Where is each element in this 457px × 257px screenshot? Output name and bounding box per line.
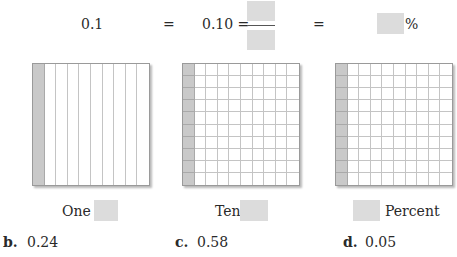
grid-cell: [241, 125, 253, 137]
fraction-bar: [247, 25, 275, 26]
grid-cell: [417, 149, 429, 161]
grid-cell: [440, 125, 452, 137]
shaded-cell: [336, 112, 348, 124]
grid-cell: [394, 64, 406, 76]
equals-sign: =: [163, 16, 175, 32]
grid-cell: [394, 88, 406, 100]
shaded-cell: [336, 88, 348, 100]
problem-letter-c: c.: [175, 234, 188, 250]
grid-cell: [371, 88, 383, 100]
grid-cell: [276, 64, 288, 76]
grid-cell: [382, 137, 394, 149]
grid-cell: [371, 100, 383, 112]
grid-cell: [382, 88, 394, 100]
grid-cell: [241, 112, 253, 124]
grid-cell: [429, 173, 441, 185]
grid-cell: [253, 76, 265, 88]
grid-cell: [45, 64, 57, 185]
grid-cell: [195, 76, 207, 88]
grid-cell: [206, 173, 218, 185]
grid-cell: [264, 64, 276, 76]
shaded-cell: [336, 161, 348, 173]
grid-cell: [241, 64, 253, 76]
ones-label-blank[interactable]: [94, 200, 118, 221]
grid-cell: [195, 125, 207, 137]
tens-label: Ten: [215, 203, 241, 219]
hundredths-expression: 0.10 =: [202, 16, 249, 32]
numerator-blank[interactable]: [247, 1, 275, 21]
grid-cell: [440, 76, 452, 88]
grid-cell: [253, 112, 265, 124]
grid-cell: [206, 64, 218, 76]
grid-cell: [276, 125, 288, 137]
grid-cell: [440, 173, 452, 185]
denominator-blank[interactable]: [247, 30, 275, 50]
shaded-cell: [183, 64, 195, 76]
grid-cell: [206, 112, 218, 124]
grid-cell: [218, 149, 230, 161]
shaded-cell: [183, 112, 195, 124]
grid-cell: [218, 112, 230, 124]
shaded-cell: [183, 161, 195, 173]
problem-letter-d: d.: [343, 234, 358, 250]
grid-cell: [359, 76, 371, 88]
grid-cell: [264, 173, 276, 185]
percent-blank[interactable]: [377, 13, 404, 34]
grid-cell: [371, 173, 383, 185]
grid-cell: [417, 100, 429, 112]
shaded-cell: [336, 76, 348, 88]
grid-cell: [229, 112, 241, 124]
grid-cell: [276, 173, 288, 185]
grid-cell: [406, 76, 418, 88]
shaded-cell: [183, 76, 195, 88]
grid-cell: [287, 88, 299, 100]
grid-cell: [371, 137, 383, 149]
grid-cell: [276, 161, 288, 173]
grid-cell: [253, 161, 265, 173]
grid-cell: [229, 76, 241, 88]
grid-cell: [359, 161, 371, 173]
grid-cell: [195, 137, 207, 149]
grid-cell: [264, 88, 276, 100]
grid-cell: [287, 112, 299, 124]
decimal-value: 0.1: [81, 16, 103, 32]
shaded-cell: [183, 88, 195, 100]
grid-cell: [206, 76, 218, 88]
grid-cell: [382, 64, 394, 76]
grid-cell: [394, 149, 406, 161]
grid-cell: [394, 100, 406, 112]
grid-cell: [68, 64, 80, 185]
grid-cell: [253, 100, 265, 112]
shaded-cell: [336, 149, 348, 161]
grid-cell: [348, 76, 360, 88]
grid-cell: [206, 88, 218, 100]
grid-cell: [218, 125, 230, 137]
grid-cell: [440, 112, 452, 124]
percent-label-blank[interactable]: [353, 200, 380, 221]
grid-cell: [382, 161, 394, 173]
grid-cell: [348, 173, 360, 185]
grid-cell: [276, 112, 288, 124]
grid-cell: [440, 161, 452, 173]
shaded-cell: [183, 137, 195, 149]
grid-cell: [79, 64, 91, 185]
grid-cell: [195, 149, 207, 161]
grid-cell: [440, 100, 452, 112]
grid-cell: [348, 64, 360, 76]
grid-cell: [195, 112, 207, 124]
grid-cell: [253, 125, 265, 137]
tens-label-blank[interactable]: [240, 200, 268, 221]
grid-cell: [440, 88, 452, 100]
grid-cell: [417, 76, 429, 88]
grid-cell: [406, 161, 418, 173]
grid-cell: [429, 161, 441, 173]
grid-cell: [218, 64, 230, 76]
grid-cell: [394, 161, 406, 173]
grid-cell: [348, 161, 360, 173]
grid-cell: [195, 100, 207, 112]
grid-cell: [195, 173, 207, 185]
grid-cell: [348, 125, 360, 137]
grid-cell: [429, 149, 441, 161]
grid-cell: [429, 100, 441, 112]
grid-cell: [276, 149, 288, 161]
